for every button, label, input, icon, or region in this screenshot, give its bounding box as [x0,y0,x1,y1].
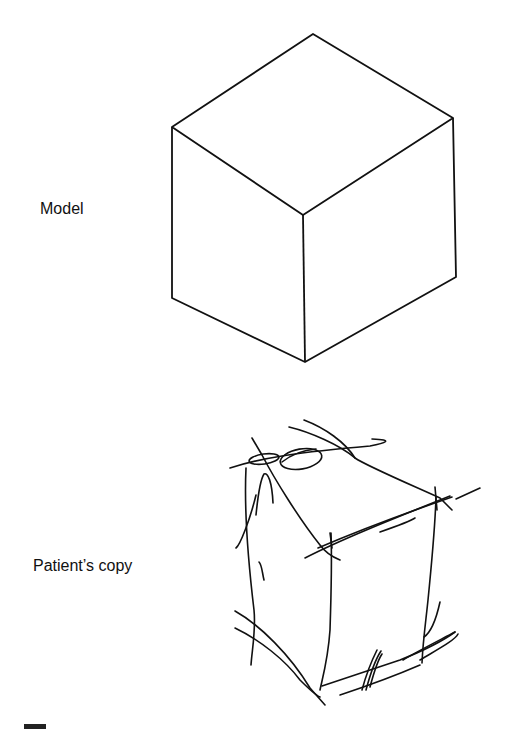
model-cube [172,34,456,362]
patient-copy-sketch [230,420,480,705]
figure-canvas [0,0,507,729]
corner-mark [24,724,46,729]
